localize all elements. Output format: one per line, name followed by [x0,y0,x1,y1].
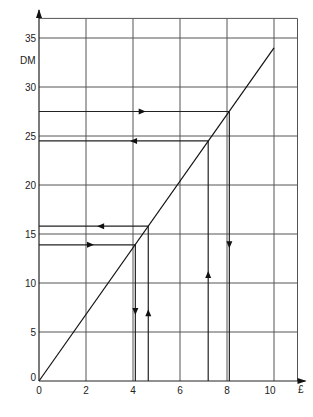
svg-text:10: 10 [264,385,276,396]
x-axis-label: £ [298,384,304,395]
svg-text:4: 4 [130,385,136,396]
conversion-line [39,48,274,381]
svg-text:10: 10 [25,278,37,289]
svg-text:35: 35 [25,33,37,44]
svg-text:30: 30 [25,82,37,93]
svg-text:15: 15 [25,229,37,240]
svg-text:0: 0 [36,385,42,396]
svg-text:8: 8 [224,385,230,396]
conversion-chart: 024681005101520253035 DM £ [0,0,313,417]
svg-text:20: 20 [25,180,37,191]
svg-text:6: 6 [177,385,183,396]
svg-text:0: 0 [30,372,36,383]
svg-text:5: 5 [30,327,36,338]
svg-text:2: 2 [83,385,89,396]
svg-text:25: 25 [25,131,37,142]
y-axis-label: DM [20,55,36,66]
